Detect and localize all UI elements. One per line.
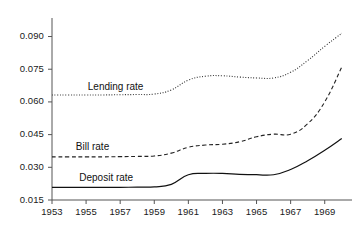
data-series-group bbox=[52, 33, 342, 187]
y-axis-tick-label: 0.075 bbox=[0, 63, 44, 74]
y-axis-ticks bbox=[48, 37, 52, 200]
chart-plot-area bbox=[0, 0, 356, 236]
y-axis-tick-label: 0.015 bbox=[0, 194, 44, 205]
series-label-deposit-rate: Deposit rate bbox=[79, 172, 133, 183]
x-axis-ticks bbox=[52, 200, 325, 204]
chart-container: 0.0150.0300.0450.0600.0750.090 195319551… bbox=[0, 0, 356, 236]
y-axis-tick-label: 0.030 bbox=[0, 161, 44, 172]
series-label-lending-rate: Lending rate bbox=[88, 81, 144, 92]
y-axis-tick-label: 0.060 bbox=[0, 95, 44, 106]
x-axis-tick-label: 1969 bbox=[305, 206, 345, 217]
y-axis-tick-label: 0.045 bbox=[0, 128, 44, 139]
y-axis-tick-label: 0.090 bbox=[0, 30, 44, 41]
series-label-bill-rate: Bill rate bbox=[76, 141, 109, 152]
